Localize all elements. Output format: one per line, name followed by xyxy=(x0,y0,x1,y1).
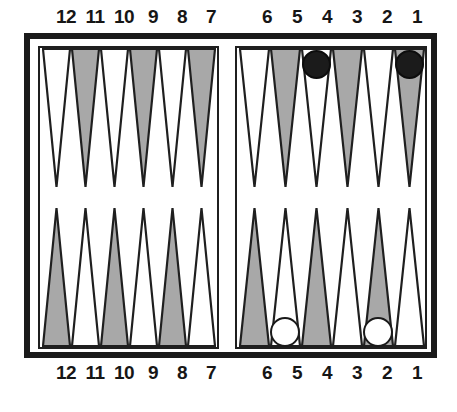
top-point-labels: 12 11 10 9 8 7 6 5 4 3 2 1 xyxy=(0,6,457,28)
faint-caption xyxy=(0,392,457,410)
bottom-label-4: 4 xyxy=(310,362,344,384)
top-label-1: 1 xyxy=(400,6,434,28)
checker-white-point-2[interactable] xyxy=(363,317,393,347)
bottom-label-2: 2 xyxy=(370,362,404,384)
backgammon-board-figure: 12 11 10 9 8 7 6 5 4 3 2 1 xyxy=(0,0,457,412)
checker-black-point-4[interactable] xyxy=(302,50,331,79)
top-label-5: 5 xyxy=(280,6,314,28)
top-label-7: 7 xyxy=(194,6,228,28)
bottom-label-3: 3 xyxy=(340,362,374,384)
bottom-point-labels: 12 11 10 9 8 7 6 5 4 3 2 1 xyxy=(0,362,457,384)
right-half-board xyxy=(235,46,427,349)
bottom-label-7: 7 xyxy=(194,362,228,384)
left-half-board xyxy=(38,46,219,349)
top-label-6: 6 xyxy=(250,6,284,28)
top-label-4: 4 xyxy=(310,6,344,28)
bottom-label-1: 1 xyxy=(400,362,434,384)
checker-white-point-5[interactable] xyxy=(270,317,300,347)
bottom-label-5: 5 xyxy=(280,362,314,384)
board-outer-frame xyxy=(24,33,437,358)
top-label-3: 3 xyxy=(340,6,374,28)
bottom-label-6: 6 xyxy=(250,362,284,384)
top-label-2: 2 xyxy=(370,6,404,28)
checker-black-point-1[interactable] xyxy=(395,50,424,79)
